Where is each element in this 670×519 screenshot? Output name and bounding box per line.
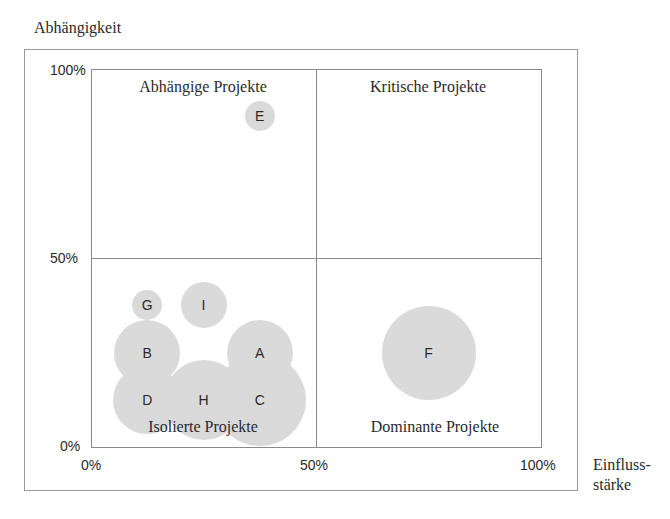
horizontal-midline — [91, 258, 542, 259]
y-tick-50: 50% — [50, 250, 78, 266]
y-tick-0: 0% — [60, 438, 80, 454]
x-axis-title: Einfluss- stärke — [593, 455, 651, 495]
bubble-label-h: H — [198, 392, 208, 408]
x-tick-100: 100% — [520, 457, 556, 473]
quadrant-label-top-left: Abhängige Projekte — [139, 78, 267, 96]
bubble-label-i: I — [202, 297, 206, 313]
y-axis-title: Abhängigkeit — [34, 19, 121, 37]
bubble-label-a: A — [255, 345, 264, 361]
x-tick-0: 0% — [81, 457, 101, 473]
bubble-label-d: D — [142, 392, 152, 408]
x-tick-50: 50% — [300, 457, 328, 473]
bubble-label-b: B — [143, 345, 152, 361]
bubble-label-f: F — [424, 345, 433, 361]
quadrant-label-bottom-left: Isolierte Projekte — [148, 418, 258, 436]
x-axis-title-line2: stärke — [593, 475, 651, 495]
quadrant-label-bottom-right: Dominante Projekte — [371, 418, 499, 436]
bubble-label-c: C — [255, 392, 265, 408]
bubble-label-e: E — [255, 108, 264, 124]
quadrant-label-top-right: Kritische Projekte — [370, 78, 486, 96]
bubble-label-g: G — [142, 297, 153, 313]
x-axis-title-line1: Einfluss- — [593, 455, 651, 475]
y-tick-100: 100% — [50, 62, 86, 78]
